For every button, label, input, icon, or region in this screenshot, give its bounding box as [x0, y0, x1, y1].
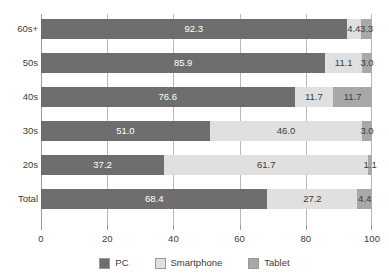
bar-segment-pc[interactable]: 92.3	[41, 19, 347, 39]
bar-segment-smartphone[interactable]: 61.7	[164, 155, 368, 175]
bar-segment-tablet[interactable]: 4.4	[357, 189, 372, 209]
y-axis-label-20s: 20s	[0, 155, 38, 175]
bar-value-label: 11.1	[335, 58, 353, 68]
legend-item-smartphone[interactable]: Smartphone	[155, 258, 223, 269]
x-tick-label-0: 0	[21, 233, 61, 244]
x-tick-label-60: 60	[220, 233, 260, 244]
y-axis-label-Total: Total	[0, 189, 38, 209]
x-tick-100	[371, 225, 372, 230]
bar-segment-smartphone[interactable]: 27.2	[267, 189, 357, 209]
bar-row[interactable]: 92.34.43.3	[41, 19, 372, 39]
bar-value-label: 4.4	[347, 24, 360, 34]
bar-row[interactable]: 76.611.711.7	[41, 87, 372, 107]
chart-legend: PCSmartphoneTablet	[0, 255, 389, 271]
bar-segment-smartphone[interactable]: 46.0	[210, 121, 362, 141]
bar-segment-tablet[interactable]: 3.0	[362, 121, 372, 141]
bar-segment-tablet[interactable]: 3.0	[362, 53, 372, 73]
y-axis-label-30s: 30s	[0, 121, 38, 141]
bar-segment-tablet[interactable]: 11.7	[333, 87, 372, 107]
bar-value-label: 37.2	[93, 160, 112, 170]
legend-label-pc: PC	[115, 258, 128, 268]
x-axis	[41, 225, 372, 233]
bar-value-label: 46.0	[277, 126, 296, 136]
bar-row[interactable]: 85.911.13.0	[41, 53, 372, 73]
legend-item-tablet[interactable]: Tablet	[248, 258, 289, 269]
bar-segment-smartphone[interactable]: 4.4	[347, 19, 362, 39]
x-tick-label-40: 40	[153, 233, 193, 244]
legend-label-tablet: Tablet	[264, 258, 289, 268]
bar-segment-smartphone[interactable]: 11.1	[325, 53, 362, 73]
bar-segment-smartphone[interactable]: 11.7	[295, 87, 334, 107]
bar-segment-pc[interactable]: 76.6	[41, 87, 295, 107]
bar-row[interactable]: 37.261.71.1	[41, 155, 372, 175]
bar-value-label: 51.0	[116, 126, 135, 136]
bar-row[interactable]: 51.046.03.0	[41, 121, 372, 141]
legend-swatch-pc	[99, 258, 110, 269]
bar-value-label: 3.0	[360, 58, 373, 68]
legend-label-smartphone: Smartphone	[171, 258, 223, 268]
x-axis-tick-labels: 020406080100	[0, 233, 389, 247]
stacked-bar-chart: 60s+50s40s30s20sTotal 92.34.43.385.911.1…	[0, 0, 389, 279]
bar-value-label: 11.7	[305, 92, 323, 102]
legend-item-pc[interactable]: PC	[99, 258, 128, 269]
x-tick-0	[41, 225, 42, 230]
bar-row[interactable]: 68.427.24.4	[41, 189, 372, 209]
x-tick-20	[107, 225, 108, 230]
bar-value-label: 92.3	[185, 24, 204, 34]
y-axis-label-40s: 40s	[0, 87, 38, 107]
bar-segment-tablet[interactable]: 1.1	[368, 155, 372, 175]
y-axis-label-50s: 50s	[0, 53, 38, 73]
y-axis-label-60splus: 60s+	[0, 19, 38, 39]
x-tick-40	[173, 225, 174, 230]
bar-value-label: 27.2	[303, 194, 322, 204]
bar-segment-pc[interactable]: 51.0	[41, 121, 210, 141]
bar-value-label: 85.9	[174, 58, 193, 68]
x-tick-label-100: 100	[352, 233, 389, 244]
bar-segment-tablet[interactable]: 3.3	[361, 19, 372, 39]
bar-value-label: 76.6	[159, 92, 178, 102]
x-tick-80	[306, 225, 307, 230]
x-tick-60	[240, 225, 241, 230]
x-tick-label-80: 80	[286, 233, 326, 244]
bar-value-label: 3.3	[360, 24, 373, 34]
plot-area: 92.34.43.385.911.13.076.611.711.751.046.…	[41, 14, 372, 225]
bar-value-label: 3.0	[360, 126, 373, 136]
bar-segment-pc[interactable]: 68.4	[41, 189, 267, 209]
bar-value-label: 4.4	[358, 194, 371, 204]
legend-swatch-smartphone	[155, 258, 166, 269]
bar-value-label: 61.7	[257, 160, 276, 170]
bar-segment-pc[interactable]: 85.9	[41, 53, 325, 73]
x-tick-label-20: 20	[87, 233, 127, 244]
bar-value-label: 68.4	[145, 194, 164, 204]
legend-swatch-tablet	[248, 258, 259, 269]
bar-value-label: 11.7	[344, 92, 362, 102]
y-axis-category-labels: 60s+50s40s30s20sTotal	[0, 14, 38, 225]
bar-value-label: 1.1	[364, 160, 377, 170]
bar-segment-pc[interactable]: 37.2	[41, 155, 164, 175]
